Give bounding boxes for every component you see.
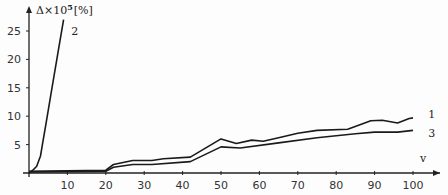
curve-label-2: 2: [71, 25, 78, 38]
x-tick-label: 80: [329, 179, 343, 192]
x-tick-label: 100: [403, 179, 424, 192]
y-tick-label: 10: [7, 110, 21, 123]
x-tick-label: 90: [368, 179, 382, 192]
curve-label-1: 1: [428, 108, 435, 121]
curve-label-3: 3: [428, 127, 435, 140]
y-tick-label: 15: [7, 82, 21, 95]
y-axis-label: Δ×105[%]: [36, 2, 93, 17]
y-tick-label: 25: [7, 25, 21, 38]
x-tick-label: 30: [137, 179, 151, 192]
series-line-2: [29, 20, 64, 173]
curve-labels: 123: [71, 25, 435, 140]
x-axis-arrow-icon: [433, 170, 440, 176]
x-axis-label: v: [419, 152, 427, 165]
x-tick-label: 50: [214, 179, 228, 192]
x-tick-label: 70: [291, 179, 305, 192]
series-line-1: [29, 118, 413, 171]
data-series: [29, 20, 413, 173]
x-tick-label: 40: [176, 179, 190, 192]
axes: [23, 6, 440, 177]
y-axis-arrow-icon: [26, 6, 32, 13]
line-chart: 102030405060708090100510152025 123 Δ×105…: [0, 0, 448, 195]
y-tick-label: 20: [7, 53, 21, 66]
y-tick-label: 5: [14, 139, 21, 152]
series-line-3: [29, 130, 413, 172]
x-tick-label: 60: [252, 179, 266, 192]
x-tick-label: 10: [60, 179, 74, 192]
x-tick-label: 20: [99, 179, 113, 192]
axis-ticks: 102030405060708090100510152025: [7, 25, 424, 192]
